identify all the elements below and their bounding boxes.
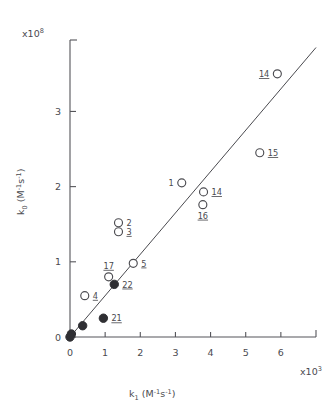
data-point-3 <box>114 228 122 236</box>
axis-tick-labels: 01234560123 <box>55 106 284 358</box>
data-point-labels: 1415114162351722421 <box>93 69 278 323</box>
point-label-22: 22 <box>122 280 132 290</box>
plot-canvas: 01234560123 1415114162351722421 x108 x10… <box>0 0 335 408</box>
data-point-15 <box>256 149 264 157</box>
point-label-16: 16 <box>198 211 208 221</box>
x-axis-exponent-label: x103 <box>300 365 322 377</box>
point-label-14: 14 <box>259 69 269 79</box>
svg-text:k0 (M-1s-1): k0 (M-1s-1) <box>15 169 29 215</box>
svg-text:1: 1 <box>55 256 61 267</box>
data-points <box>66 70 282 341</box>
plot-axes <box>70 40 316 337</box>
data-point-14 <box>273 70 281 78</box>
y-axis-title: k0 (M-1s-1) <box>15 169 29 215</box>
svg-text:3: 3 <box>55 106 61 117</box>
svg-text:1: 1 <box>102 347 108 358</box>
point-label-14: 14 <box>212 187 222 197</box>
point-label-4: 4 <box>93 291 98 301</box>
svg-text:x108: x108 <box>22 27 44 39</box>
data-point-22 <box>110 280 118 288</box>
data-point-21 <box>99 314 107 322</box>
data-point-4 <box>81 292 89 300</box>
data-point-5 <box>129 259 137 267</box>
svg-text:x103: x103 <box>300 365 322 377</box>
svg-text:2: 2 <box>55 181 61 192</box>
y-axis-exponent-label: x108 <box>22 27 44 39</box>
data-point <box>78 322 86 330</box>
point-label-15: 15 <box>268 148 278 158</box>
svg-text:6: 6 <box>278 347 284 358</box>
point-label-3: 3 <box>126 227 131 237</box>
data-point-16 <box>199 201 207 209</box>
axis-ticks <box>70 40 316 337</box>
svg-text:2: 2 <box>137 347 143 358</box>
svg-text:3: 3 <box>172 347 178 358</box>
data-point-1 <box>178 179 186 187</box>
data-point <box>66 333 74 341</box>
point-label-17: 17 <box>103 261 113 271</box>
point-label-5: 5 <box>141 259 146 269</box>
regression-line <box>70 48 316 337</box>
point-label-21: 21 <box>111 313 121 323</box>
point-label-1: 1 <box>169 178 174 188</box>
data-point-2 <box>114 219 122 227</box>
scatter-plot-figure: 01234560123 1415114162351722421 x108 x10… <box>0 0 335 408</box>
svg-text:4: 4 <box>208 347 214 358</box>
svg-text:5: 5 <box>243 347 249 358</box>
svg-text:k1 (M-1s-1): k1 (M-1s-1) <box>129 388 175 402</box>
x-axis-title: k1 (M-1s-1) <box>129 388 175 402</box>
data-point-17 <box>105 273 113 281</box>
svg-text:0: 0 <box>55 332 61 343</box>
svg-text:0: 0 <box>67 347 73 358</box>
data-point-14 <box>200 188 208 196</box>
